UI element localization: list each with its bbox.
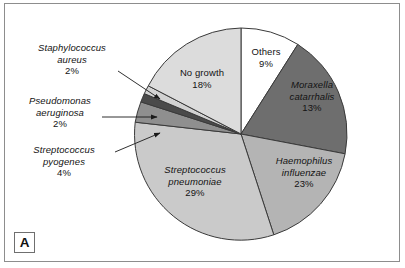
callout-label-streptococcus-pyogenes-name-line2: pyogenes xyxy=(43,156,85,167)
callout-label-pseudomonas-aeruginosa-name-line1: Pseudomonas xyxy=(29,95,91,106)
figure-panel: Others 9% Moraxella catarrhalis 13% Haem… xyxy=(4,3,400,262)
pie-label-others-percent: 9% xyxy=(235,58,297,70)
pie-label-haemophilus-influenzae-percent: 23% xyxy=(260,178,348,190)
pie-label-moraxella-catarrhalis-percent: 13% xyxy=(273,102,351,114)
callout-label-streptococcus-pyogenes-percent: 4% xyxy=(18,167,110,179)
pie-label-others-name: Others xyxy=(251,46,280,57)
callout-label-staphylococcus-aureus: Staphylococcus aureus 2% xyxy=(24,42,120,77)
pie-label-no-growth-percent: 18% xyxy=(160,79,244,91)
pie-chart: Others 9% Moraxella catarrhalis 13% Haem… xyxy=(5,4,399,261)
pie-label-no-growth: No growth 18% xyxy=(160,67,244,90)
callout-label-streptococcus-pyogenes: Streptococcus pyogenes 4% xyxy=(18,144,110,179)
callout-label-staphylococcus-aureus-name-line1: Staphylococcus xyxy=(38,42,106,53)
pie-label-moraxella-catarrhalis-name-line1: Moraxella xyxy=(291,79,333,90)
pie-label-no-growth-name: No growth xyxy=(180,67,224,78)
callout-label-streptococcus-pyogenes-name-line1: Streptococcus xyxy=(33,144,95,155)
pie-label-streptococcus-pneumoniae-name-line2: pneumoniae xyxy=(168,176,221,187)
pie-label-streptococcus-pneumoniae-percent: 29% xyxy=(147,187,243,199)
pie-label-haemophilus-influenzae-name-line2: influenzae xyxy=(282,167,326,178)
callout-label-pseudomonas-aeruginosa-name-line2: aeruginosa xyxy=(36,107,84,118)
pie-label-streptococcus-pneumoniae-name-line1: Streptococcus xyxy=(164,164,226,175)
pie-label-streptococcus-pneumoniae: Streptococcus pneumoniae 29% xyxy=(147,164,243,199)
pie-label-haemophilus-influenzae-name-line1: Haemophilus xyxy=(276,155,333,166)
panel-letter: A xyxy=(14,232,35,253)
callout-label-pseudomonas-aeruginosa-percent: 2% xyxy=(14,118,106,130)
callout-label-staphylococcus-aureus-name-line2: aureus xyxy=(57,54,87,65)
callout-label-staphylococcus-aureus-percent: 2% xyxy=(24,65,120,77)
pie-label-others: Others 9% xyxy=(235,46,297,69)
callout-label-pseudomonas-aeruginosa: Pseudomonas aeruginosa 2% xyxy=(14,95,106,130)
pie-label-moraxella-catarrhalis: Moraxella catarrhalis 13% xyxy=(273,79,351,114)
pie-label-haemophilus-influenzae: Haemophilus influenzae 23% xyxy=(260,155,348,190)
pie-label-moraxella-catarrhalis-name-line2: catarrhalis xyxy=(290,91,335,102)
